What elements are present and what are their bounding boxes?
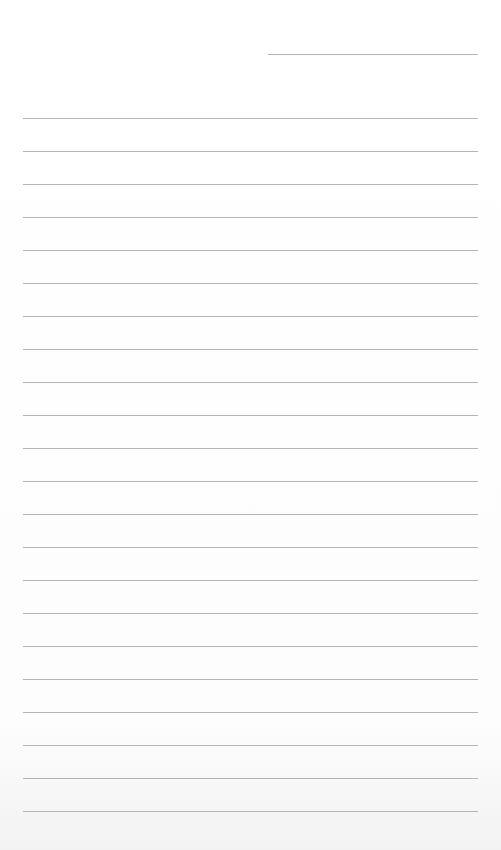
ruled-line [23, 811, 478, 812]
ruled-line [23, 514, 478, 515]
ruled-line [23, 547, 478, 548]
ruled-line [23, 283, 478, 284]
ruled-line [23, 481, 478, 482]
ruled-line [23, 613, 478, 614]
ruled-line [23, 217, 478, 218]
ruled-line [23, 679, 478, 680]
ruled-line [23, 316, 478, 317]
ruled-line [23, 646, 478, 647]
ruled-line [23, 712, 478, 713]
date-line [268, 54, 478, 55]
ruled-line [23, 151, 478, 152]
lined-paper-sheet [0, 0, 501, 850]
ruled-line [23, 448, 478, 449]
ruled-line [23, 382, 478, 383]
ruled-line [23, 778, 478, 779]
ruled-line [23, 745, 478, 746]
ruled-line [23, 415, 478, 416]
ruled-line [23, 580, 478, 581]
ruled-line [23, 184, 478, 185]
ruled-line [23, 118, 478, 119]
ruled-line [23, 250, 478, 251]
ruled-line [23, 349, 478, 350]
